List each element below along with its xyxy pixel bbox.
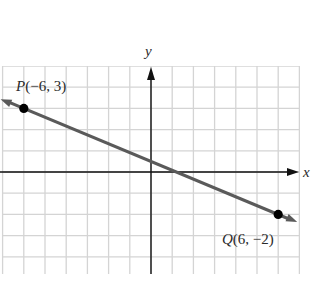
- point-p: [19, 104, 28, 113]
- x-axis-label: x: [302, 164, 310, 180]
- y-axis-arrow-icon: [147, 67, 155, 80]
- x-axis-arrow-icon: [287, 168, 299, 176]
- point-p-label: P(−6, 3): [15, 78, 66, 95]
- point-q: [274, 210, 283, 219]
- coordinate-plane: x y P(−6, 3) Q(6, −2): [0, 0, 325, 285]
- y-axis-label: y: [143, 43, 152, 59]
- line-segment: [8, 102, 291, 220]
- line-arrow-right-icon: [286, 214, 298, 222]
- point-q-label: Q(6, −2): [222, 231, 274, 248]
